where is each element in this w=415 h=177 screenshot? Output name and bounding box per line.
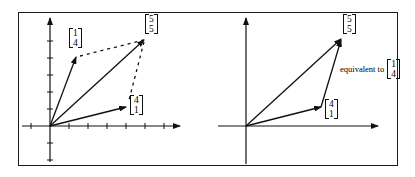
vec-bottom: 1	[134, 105, 139, 115]
vector-label-4-1: 4 1	[130, 95, 143, 115]
equivalent-vector: 1 4	[387, 59, 400, 79]
vector-label-1-4: 1 4	[69, 28, 82, 48]
vector-label-5-5-right: 5 5	[343, 14, 356, 34]
vector-label-5-5: 5 5	[145, 14, 158, 34]
equivalent-text: equivalent to	[340, 64, 384, 74]
left-ticks	[31, 41, 164, 160]
vec-bottom: 5	[347, 24, 352, 34]
left-axes	[22, 18, 180, 162]
vec-bottom: 4	[73, 38, 78, 48]
vector-label-4-1-right: 4 1	[325, 99, 338, 119]
vec-top: 1	[391, 59, 396, 69]
vec-bottom: 5	[149, 24, 154, 34]
vec-bottom: 4	[391, 69, 396, 79]
right-axes	[218, 18, 378, 164]
vec-top: 4	[329, 99, 334, 109]
equivalent-annotation: equivalent to 1 4	[340, 59, 400, 79]
vec-top: 4	[134, 95, 139, 105]
vec-bottom: 1	[329, 109, 334, 119]
vec-top: 5	[347, 14, 352, 24]
vec-top: 5	[149, 14, 154, 24]
vec-top: 1	[73, 28, 78, 38]
